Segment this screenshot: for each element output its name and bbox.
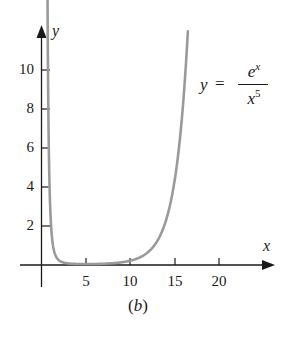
y-tick-label-2: 2	[8, 218, 34, 233]
x-tick-label-5: 5	[71, 274, 101, 289]
x-axis-label: x	[263, 238, 270, 254]
x-axis-arrow-icon	[262, 260, 275, 270]
function-curve	[47, 0, 188, 264]
x-tick-label-15: 15	[160, 274, 190, 289]
figure-caption: (b)	[108, 297, 168, 314]
equation-equals: =	[215, 74, 225, 94]
fraction-bar	[238, 84, 268, 85]
equation-lhs: y	[200, 75, 208, 95]
y-axis-label: y	[52, 23, 59, 39]
y-tick-label-4: 4	[8, 179, 34, 194]
x-tick-label-20: 20	[204, 274, 234, 289]
equation-label: y = ex x5	[200, 60, 270, 112]
y-tick-label-10: 10	[8, 62, 34, 77]
y-axis-arrow-icon	[37, 25, 47, 38]
equation-denominator: x5	[239, 87, 269, 109]
equation-numerator: ex	[239, 60, 269, 82]
y-tick-label-8: 8	[8, 101, 34, 116]
y-tick-label-6: 6	[8, 140, 34, 155]
x-tick-label-10: 10	[115, 274, 145, 289]
